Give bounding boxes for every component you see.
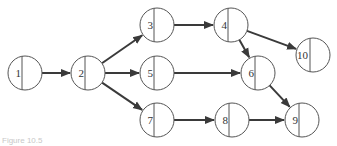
node-circle bbox=[140, 103, 174, 137]
node-6: 6 bbox=[241, 56, 275, 90]
node-label: 4 bbox=[222, 19, 228, 31]
node-circle bbox=[140, 56, 174, 90]
node-4: 4 bbox=[214, 8, 248, 42]
node-3: 3 bbox=[140, 8, 174, 42]
node-label: 9 bbox=[293, 114, 299, 126]
node-label: 1 bbox=[16, 67, 22, 79]
node-7: 7 bbox=[140, 103, 174, 137]
edge-2-7 bbox=[102, 83, 142, 110]
node-label: 8 bbox=[223, 114, 229, 126]
node-5: 5 bbox=[140, 56, 174, 90]
node-circle bbox=[215, 103, 249, 137]
node-10: 10 bbox=[296, 38, 330, 72]
node-9: 9 bbox=[285, 103, 319, 137]
node-circle bbox=[140, 8, 174, 42]
figure-caption: Figure 10.5 bbox=[2, 136, 42, 145]
edge-6-9 bbox=[270, 85, 290, 106]
node-label: 6 bbox=[249, 67, 255, 79]
node-circle bbox=[8, 56, 42, 90]
node-8: 8 bbox=[215, 103, 249, 137]
node-2: 2 bbox=[71, 56, 105, 90]
node-circle bbox=[214, 8, 248, 42]
node-label: 2 bbox=[79, 67, 85, 79]
edge-4-6 bbox=[239, 40, 249, 57]
network-diagram: 12345678910 bbox=[0, 0, 337, 146]
edge-4-10 bbox=[247, 31, 296, 49]
node-label: 3 bbox=[148, 19, 154, 31]
node-circle bbox=[71, 56, 105, 90]
node-circle bbox=[241, 56, 275, 90]
node-1: 1 bbox=[8, 56, 42, 90]
node-label: 10 bbox=[297, 49, 309, 61]
node-label: 7 bbox=[148, 114, 154, 126]
node-circle bbox=[285, 103, 319, 137]
edge-2-3 bbox=[102, 35, 142, 63]
node-label: 5 bbox=[148, 67, 154, 79]
